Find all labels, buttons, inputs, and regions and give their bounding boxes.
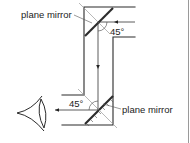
down-arrow-icon	[96, 65, 100, 69]
incoming-arrow-icon	[114, 20, 118, 24]
tube-outer-wall	[62, 7, 135, 95]
top-mirror-label: plane mirror	[21, 9, 72, 20]
outgoing-arrow-icon	[55, 108, 59, 112]
top-mirror-leader	[74, 15, 92, 23]
top-angle-label: 45°	[110, 26, 125, 37]
bottom-mirror	[78, 89, 117, 128]
bottom-angle-label: 45°	[69, 98, 84, 109]
bottom-mirror-label: plane mirror	[122, 104, 173, 115]
eye-icon	[17, 96, 46, 131]
periscope-diagram: 45° 45° plane mirror plane mirror	[0, 0, 190, 143]
bottom-angle-arc	[89, 101, 98, 110]
bottom-mirror-normal	[78, 89, 117, 128]
bottom-mirror-leader	[103, 104, 121, 109]
